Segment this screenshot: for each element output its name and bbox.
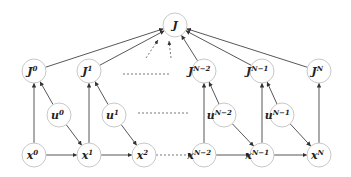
node-xN2: xN−2	[186, 143, 216, 167]
edge-uN2-xN1	[232, 124, 253, 147]
edges	[34, 29, 319, 155]
edge-uN2-JN2	[209, 82, 219, 104]
node-uN2: uN−2	[207, 103, 236, 127]
edge-u0-x1	[66, 125, 82, 146]
node-J0: J0	[22, 59, 46, 83]
node-xN: xN	[307, 143, 331, 167]
node-x2: x2	[132, 143, 156, 167]
node-uN1: uN−1	[265, 103, 294, 127]
edge-uN1-JN1	[267, 82, 277, 104]
node-xN1: xN−1	[244, 143, 274, 167]
edge-JN2-J	[181, 35, 197, 61]
edge-JN1-J	[186, 31, 252, 66]
diagram-canvas: JJ0J1JN−2JN−1JNu0u1uN−2uN−1x0x1x2xN−2xN−…	[0, 0, 351, 177]
edge-u1-J1	[95, 81, 108, 104]
edge-J0-J	[45, 29, 163, 68]
dashed-arrow-to-J-1	[169, 41, 171, 58]
edge-J1-J	[100, 31, 165, 66]
dashed-arrow-to-J-0	[146, 40, 158, 58]
node-x0: x0	[22, 143, 46, 167]
node-JN2: JN−2	[186, 59, 216, 83]
nodes: JJ0J1JN−2JN−1JNu0u1uN−2uN−1x0x1x2xN−2xN−…	[22, 13, 331, 167]
node-J1: J1	[77, 59, 101, 83]
edge-uN1-xN	[290, 124, 311, 146]
node-x1: x1	[77, 143, 101, 167]
node-JN1: JN−1	[244, 59, 274, 83]
node-JN: JN	[307, 59, 331, 83]
edge-u1-x2	[121, 125, 137, 146]
edge-u0-J0	[40, 81, 53, 104]
node-u0: u0	[47, 103, 71, 127]
node-label: J	[170, 19, 178, 32]
node-u1: u1	[102, 103, 126, 127]
node-J: J	[163, 13, 187, 37]
